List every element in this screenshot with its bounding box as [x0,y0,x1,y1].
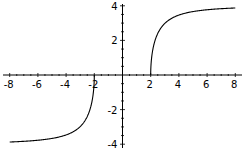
axes [3,4,242,148]
left-branch-curve [10,75,95,142]
right-branch-curve [151,8,236,75]
function-plot: -8-6-4-22468-4-224 [0,0,243,150]
x-tick-label: 6 [203,79,209,90]
x-tick-label: -8 [4,79,14,90]
y-tick-label: -2 [108,105,118,116]
x-tick-label: 2 [147,79,153,90]
x-tick-label: 4 [175,79,181,90]
y-tick-label: -4 [108,139,118,150]
x-tick-label: -4 [60,79,70,90]
y-tick-label: 4 [111,1,117,12]
y-tick-label: 2 [111,35,117,46]
x-tick-label: 8 [231,79,237,90]
x-tick-label: -6 [32,79,42,90]
